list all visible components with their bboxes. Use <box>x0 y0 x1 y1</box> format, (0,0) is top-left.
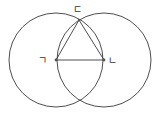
diagram-canvas: ㄱ ㄴ ㄷ <box>0 0 158 114</box>
segment-bc <box>79 20 104 60</box>
label-point-b: ㄴ <box>108 55 117 66</box>
point-a <box>55 59 58 62</box>
label-point-c: ㄷ <box>73 4 82 15</box>
point-c <box>78 19 80 21</box>
segment-ac <box>56 20 79 60</box>
label-point-a: ㄱ <box>38 55 47 66</box>
point-b <box>103 59 106 62</box>
